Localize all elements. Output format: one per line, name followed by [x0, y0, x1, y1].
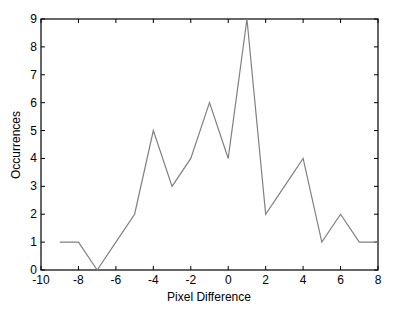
y-tick-label: 2 [30, 207, 37, 221]
x-tick-label: -4 [148, 273, 159, 287]
y-tick-label: 6 [30, 96, 37, 110]
y-tick-label: 9 [30, 12, 37, 26]
y-tick-label: 5 [30, 124, 37, 138]
y-tick-label: 1 [30, 235, 37, 249]
y-tick-label: 3 [30, 179, 37, 193]
x-tick-label: -8 [73, 273, 84, 287]
x-tick-label: 2 [262, 273, 269, 287]
x-tick-label: 4 [300, 273, 307, 287]
x-tick-label: 0 [225, 273, 232, 287]
line-chart: -10-8-6-4-2024680123456789 Pixel Differe… [0, 0, 395, 313]
y-tick-label: 4 [30, 151, 37, 165]
y-tick-label: 0 [30, 263, 37, 277]
y-tick-label: 8 [30, 40, 37, 54]
y-tick-label: 7 [30, 68, 37, 82]
plot-area: -10-8-6-4-2024680123456789 [30, 12, 381, 287]
data-line [60, 19, 378, 270]
x-tick-label: -2 [185, 273, 196, 287]
x-tick-label: -6 [111, 273, 122, 287]
x-tick-label: 8 [375, 273, 382, 287]
x-tick-label: 6 [337, 273, 344, 287]
axes-box [41, 19, 378, 270]
y-axis-label: Occurrences [9, 111, 23, 179]
x-axis-label: Pixel Difference [167, 290, 251, 304]
